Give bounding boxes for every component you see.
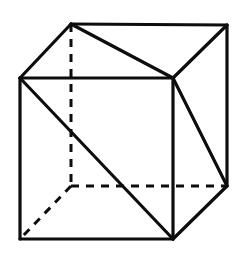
top-right-connector-edge — [173, 25, 227, 78]
bottom-left-connector-edge — [20, 186, 71, 239]
bottom-right-connector-edge — [173, 186, 227, 239]
figure-canvas — [0, 0, 247, 259]
visible-edges-group — [20, 24, 227, 239]
front-face-diagonal — [20, 78, 173, 239]
cube-wireframe-diagram — [0, 0, 247, 259]
top-left-connector-edge — [20, 24, 71, 78]
back-top-edge — [71, 24, 227, 25]
top-face-diagonal — [71, 24, 173, 78]
right-face-diagonal — [173, 78, 227, 186]
